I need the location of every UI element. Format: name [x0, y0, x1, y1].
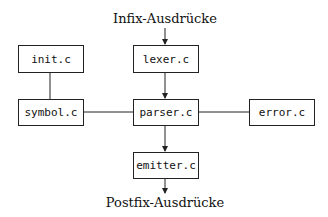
module-symbol: symbol.c [18, 99, 84, 126]
module-lexer: lexer.c [133, 45, 199, 73]
module-parser: parser.c [133, 99, 199, 126]
module-error: error.c [249, 99, 315, 126]
module-init: init.c [18, 45, 84, 73]
module-emitter: emitter.c [133, 152, 199, 179]
output-label: Postfix-Ausdrücke [106, 195, 224, 210]
input-label: Infix-Ausdrücke [113, 11, 217, 26]
